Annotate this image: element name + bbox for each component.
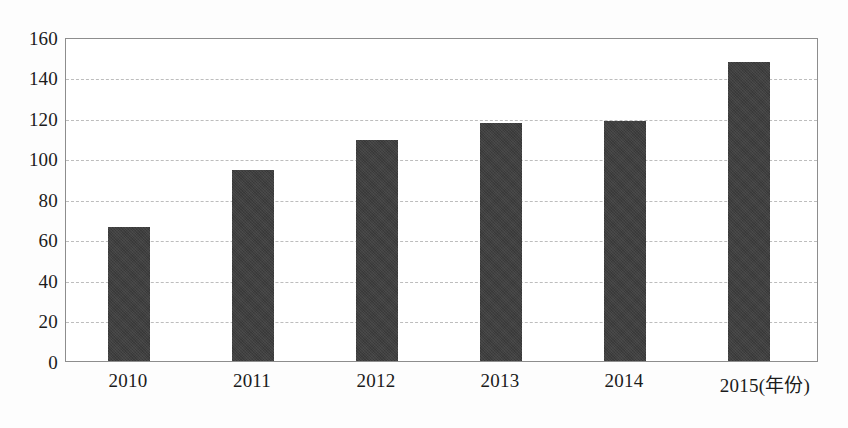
x-tick-label-2012: 2012 <box>357 370 396 392</box>
x-tick-label-2014: 2014 <box>605 370 644 392</box>
bar-2013 <box>480 123 522 361</box>
bar-2012 <box>356 140 398 361</box>
bar-2011 <box>232 170 274 361</box>
x-tick-label-2015-year: 2015(年份) <box>720 370 810 397</box>
y-tick-label-20: 20 <box>4 312 58 331</box>
y-tick-label-40: 40 <box>4 272 58 291</box>
y-tick-label-120: 120 <box>4 110 58 129</box>
y-tick-label-160: 160 <box>4 29 58 48</box>
y-tick-label-80: 80 <box>4 191 58 210</box>
bar-2014 <box>604 121 646 361</box>
y-tick-label-0: 0 <box>4 353 58 372</box>
bar-2010 <box>108 227 150 361</box>
y-tick-label-140: 140 <box>4 69 58 88</box>
x-axis-tick-labels: 2010 2011 2012 2013 2014 2015(年份) <box>65 370 848 404</box>
plot-area <box>65 38 818 362</box>
bar-2015 <box>728 62 770 361</box>
bars-layer <box>66 39 817 361</box>
x-tick-label-2011: 2011 <box>233 370 271 392</box>
y-tick-label-60: 60 <box>4 231 58 250</box>
x-tick-label-2010: 2010 <box>109 370 148 392</box>
y-tick-label-100: 100 <box>4 150 58 169</box>
x-tick-label-2013: 2013 <box>481 370 520 392</box>
y-axis-tick-labels: 160 140 120 100 80 60 40 20 0 <box>0 0 58 428</box>
bar-chart-figure: 160 140 120 100 80 60 40 20 0 <box>0 0 848 428</box>
